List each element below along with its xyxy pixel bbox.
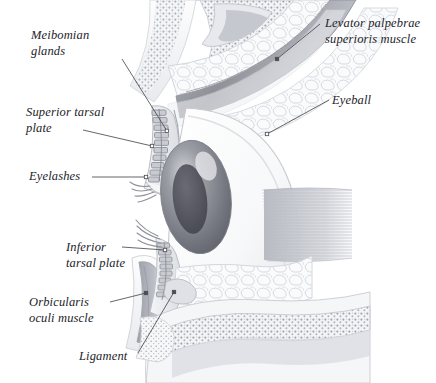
marker-ligament: [172, 290, 175, 293]
label-inferior-tarsal-plate: Inferior tarsal plate: [66, 240, 125, 271]
label-levator-palpebrae: Levator palpebrae superioris muscle: [325, 16, 420, 47]
marker-meibomian-glands: [165, 129, 168, 132]
label-superior-tarsal-plate: Superior tarsal plate: [26, 105, 104, 136]
label-orbicularis-oculi: Orbicularis oculi muscle: [29, 295, 94, 326]
marker-eyelashes: [144, 175, 147, 178]
marker-superior-tarsal-plate: [150, 144, 153, 147]
marker-orbicularis-oculi: [144, 291, 147, 294]
marker-inferior-tarsal-plate: [163, 248, 166, 251]
marker-eyeball: [265, 132, 268, 135]
anatomical-figure-page: Meibomian glands Superior tarsal plate E…: [0, 0, 436, 383]
label-ligament: Ligament: [79, 349, 127, 365]
rectus-muscle-group: [258, 186, 358, 264]
marker-levator-palpebrae: [275, 57, 278, 60]
label-meibomian-glands: Meibomian glands: [31, 28, 89, 59]
rectus-striations: [258, 186, 358, 264]
label-eyelashes: Eyelashes: [29, 169, 80, 185]
label-eyeball: Eyeball: [332, 93, 371, 109]
